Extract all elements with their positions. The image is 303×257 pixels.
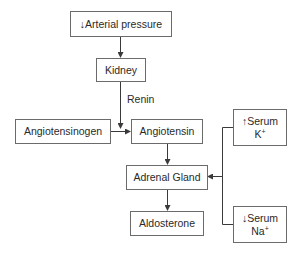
edge-label-renin: Renin — [127, 93, 154, 105]
node-label: Kidney — [105, 64, 137, 77]
node-serum-na: ↓Serum Na+ — [233, 206, 287, 243]
node-label: Angiotensinogen — [24, 125, 102, 138]
node-label: Adrenal Gland — [133, 171, 200, 184]
node-label: Serum — [247, 212, 278, 224]
node-adrenal-gland: Adrenal Gland — [126, 165, 208, 190]
node-serum-k: ↑Serum K+ — [233, 109, 287, 146]
ion-charge: + — [261, 127, 265, 134]
node-angiotensinogen: Angiotensinogen — [15, 119, 111, 144]
node-aldosterone: Aldosterone — [130, 211, 204, 236]
node-label: Arterial pressure — [85, 18, 162, 31]
node-label: Serum — [247, 115, 278, 127]
node-angiotensin: Angiotensin — [131, 119, 203, 144]
node-kidney: Kidney — [96, 58, 146, 82]
node-label: Angiotensin — [140, 125, 195, 138]
node-label: Aldosterone — [139, 217, 195, 230]
ion-charge: + — [265, 224, 269, 231]
node-arterial-pressure: ↓Arterial pressure — [70, 11, 172, 37]
ion-symbol: Na — [251, 225, 264, 237]
